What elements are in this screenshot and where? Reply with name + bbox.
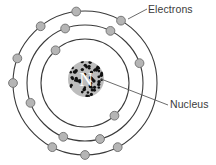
nucleus-particle: [90, 93, 93, 96]
nucleus-label: Nucleus: [170, 99, 209, 110]
nucleus-group: N: [68, 60, 104, 98]
electrons-leader: [128, 9, 147, 19]
electrons-label: Electrons: [148, 4, 193, 15]
nucleus-leader: [101, 79, 168, 105]
electron-middle-shell-3: [26, 98, 35, 107]
nucleus-particle: [71, 77, 74, 80]
electron-inner-shell-2: [51, 46, 60, 55]
electron-outer-shell-6: [36, 22, 45, 31]
nucleus-particle: [100, 71, 104, 75]
electron-middle-shell-5: [106, 26, 115, 35]
nucleus-particle: [97, 83, 100, 86]
nucleus-particle: [88, 65, 91, 68]
nucleus-particle: [70, 71, 73, 74]
nucleus-particle: [97, 86, 100, 89]
nucleus-particle: [70, 84, 73, 87]
electron-outer-shell-8: [117, 16, 126, 25]
atom-diagram-canvas: N: [0, 0, 216, 165]
electron-middle-shell-2: [59, 132, 68, 141]
electron-middle-shell-6: [135, 59, 144, 68]
nucleus-particle: [87, 95, 90, 98]
nucleus-particle: [74, 79, 77, 82]
nucleus-particle: [88, 61, 91, 64]
nucleus-particle: [80, 60, 83, 63]
nucleus-particle: [84, 64, 87, 67]
nucleus-particle: [95, 69, 98, 72]
nucleus-particle: [73, 70, 76, 73]
electron-outer-shell-2: [81, 151, 90, 160]
leader-lines-group: [101, 9, 168, 105]
electron-outer-shell-3: [48, 143, 57, 152]
nucleus-particle: [97, 66, 100, 69]
electron-middle-shell-4: [61, 24, 70, 33]
electron-middle-shell-1: [96, 135, 105, 144]
electron-outer-shell-1: [113, 143, 122, 152]
electron-inner-shell-1: [110, 111, 119, 120]
nucleus-particle: [97, 75, 100, 78]
nucleus-particle: [71, 66, 74, 69]
nucleus-letter: N: [79, 69, 93, 90]
nucleus-particle: [81, 91, 84, 94]
nucleus-particle: [93, 86, 96, 89]
nucleus-particle: [93, 89, 96, 92]
atom-diagram-figure: N Electrons Nucleus: [0, 0, 216, 165]
nucleus-particle: [87, 91, 90, 94]
electron-outer-shell-7: [72, 7, 81, 16]
electron-outer-shell-5: [13, 54, 22, 63]
electron-outer-shell-4: [9, 79, 18, 88]
